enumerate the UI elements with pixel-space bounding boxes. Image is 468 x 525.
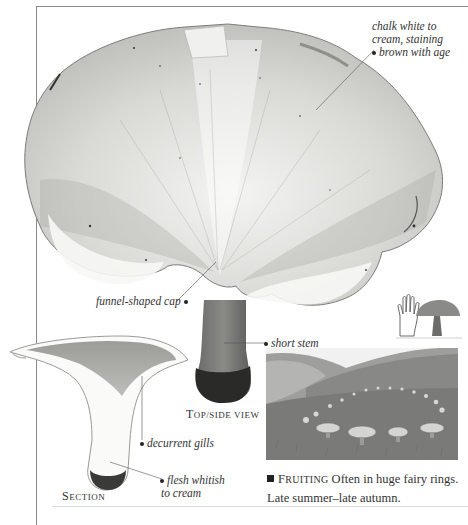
main-cap (25, 24, 443, 305)
annotation-gills: decurrent gills (140, 437, 214, 450)
bullet-dot-icon (184, 300, 188, 304)
annotation-line: chalk white to (372, 20, 450, 33)
fruiting-note: FRUITING Often in huge fairy rings. Late… (267, 470, 467, 507)
mushroom-icon (416, 300, 460, 336)
caption-rest: ECTION (69, 492, 105, 502)
bullet-dot-icon (264, 342, 268, 346)
caption-rest: OP/SIDE VIEW (194, 410, 260, 420)
annotation-text: decurrent gills (147, 437, 214, 449)
bullet-dot-icon (140, 442, 144, 446)
caption-initial: T (186, 407, 194, 421)
annotation-text: flesh whitish (167, 474, 225, 486)
caption-top-side-view: TOP/SIDE VIEW (186, 407, 259, 422)
annotation-line: cream, staining (372, 33, 450, 46)
annotation-flesh: flesh whitish to cream (160, 474, 225, 500)
keyword-rest: RUITING (285, 474, 328, 485)
annotation-text: brown with age (379, 46, 450, 58)
bullet-dot-icon (160, 479, 164, 483)
annotation-line: to cream (160, 487, 225, 500)
annotation-cap-shape: funnel-shaped cap (96, 295, 191, 308)
main-stem (195, 300, 251, 403)
caption-section: SECTION (62, 489, 105, 504)
annotation-line: brown with age (372, 46, 450, 59)
bullet-dot-icon (372, 51, 376, 55)
fruiting-keyword: FRUITING (278, 472, 328, 486)
annotation-text: funnel-shaped cap (96, 295, 181, 307)
hand-icon (398, 295, 419, 337)
section-mushroom (10, 336, 188, 490)
annotation-cap-color: chalk white to cream, staining brown wit… (372, 20, 450, 59)
habitat-photo (266, 348, 458, 460)
fairy-ring-landscape (266, 348, 458, 460)
size-scale-icon (394, 292, 464, 342)
annotation-line: flesh whitish (160, 474, 225, 487)
square-bullet-icon (267, 475, 274, 482)
